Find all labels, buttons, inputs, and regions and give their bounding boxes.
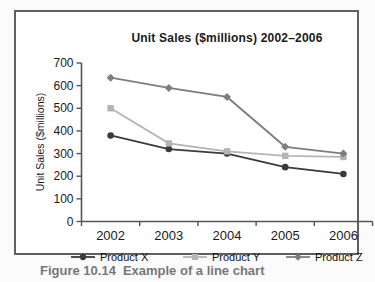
- legend-marker-product-z: [294, 253, 302, 261]
- y-tick-label: 200: [53, 169, 73, 183]
- x-category-label: 2006: [329, 228, 358, 243]
- x-category-label: 2005: [271, 228, 300, 243]
- point-product-x-2003: [166, 146, 173, 153]
- legend-square-icon: [183, 251, 207, 263]
- y-tick-label: 300: [53, 147, 73, 161]
- point-product-z-2002: [107, 74, 115, 82]
- point-product-x-2002: [107, 132, 114, 139]
- legend-marker-product-y: [192, 254, 198, 260]
- chart-legend: Product XProduct YProduct Z: [16, 250, 375, 264]
- x-category-label: 2004: [213, 228, 242, 243]
- y-tick-label: 0: [67, 215, 74, 229]
- legend-diamond-icon: [286, 251, 310, 263]
- legend-marker-product-x: [80, 254, 86, 260]
- figure-caption: Figure 10.14Example of a line chart: [40, 263, 264, 278]
- chart-svg: 0100200300400500600700200220032004200520…: [16, 12, 375, 282]
- point-product-y-2005: [282, 153, 288, 159]
- figure-caption-label: Figure 10.14: [40, 263, 116, 278]
- y-tick-label: 400: [53, 124, 73, 138]
- series-line-product-z: [111, 78, 344, 154]
- y-tick-label: 500: [53, 101, 73, 115]
- legend-label-product-z: Product Z: [315, 251, 363, 263]
- legend-label-product-x: Product X: [100, 251, 148, 263]
- legend-item-product-y: Product Y: [183, 250, 260, 264]
- legend-item-product-x: Product X: [71, 250, 148, 264]
- point-product-y-2002: [107, 105, 113, 111]
- x-category-label: 2002: [96, 228, 125, 243]
- legend-item-product-z: Product Z: [286, 250, 363, 264]
- y-tick-label: 700: [53, 56, 73, 70]
- figure-caption-text: Example of a line chart: [123, 263, 265, 278]
- point-product-x-2006: [340, 171, 347, 178]
- legend-circle-icon: [71, 251, 95, 263]
- point-product-z-2003: [165, 84, 173, 92]
- y-tick-label: 600: [53, 79, 73, 93]
- point-product-x-2005: [282, 164, 289, 171]
- x-category-label: 2003: [154, 228, 183, 243]
- point-product-y-2003: [166, 140, 172, 146]
- point-product-y-2004: [224, 148, 230, 154]
- chart-container: Unit Sales ($millions) 2002–2006 Unit Sa…: [14, 10, 359, 255]
- y-tick-label: 100: [53, 192, 73, 206]
- legend-label-product-y: Product Y: [212, 251, 260, 263]
